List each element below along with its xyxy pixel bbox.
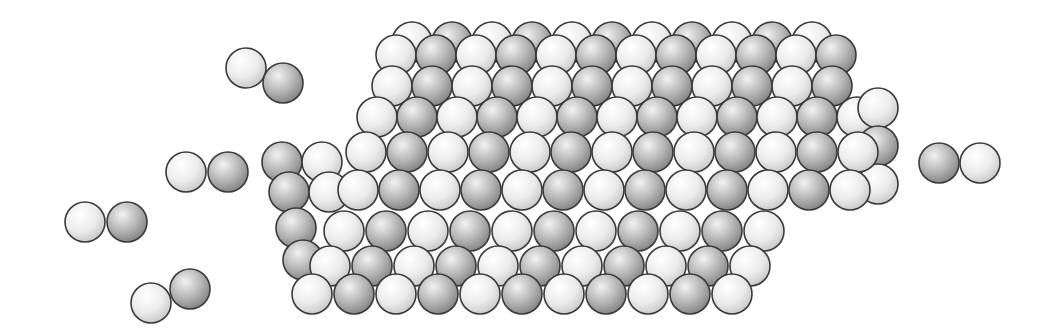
molecule-far-left xyxy=(65,202,147,242)
light-atom-icon xyxy=(502,170,542,210)
dark-atom-icon xyxy=(557,97,597,137)
light-atom-icon xyxy=(226,48,266,88)
dark-atom-icon xyxy=(543,170,583,210)
dark-atom-icon xyxy=(586,274,626,314)
light-atom-icon xyxy=(131,283,171,323)
light-atom-icon xyxy=(166,152,206,192)
light-atom-icon xyxy=(830,170,870,210)
light-atom-icon xyxy=(757,97,797,137)
light-atom-icon xyxy=(597,97,637,137)
dark-atom-icon xyxy=(637,97,677,137)
dark-atom-icon xyxy=(269,172,309,212)
dark-atom-icon xyxy=(461,170,501,210)
light-atom-icon xyxy=(858,88,898,128)
lattice-main-row-3 xyxy=(324,211,784,251)
dark-atom-icon xyxy=(450,211,490,251)
light-atom-icon xyxy=(492,211,532,251)
dark-atom-icon xyxy=(366,211,406,251)
lattice-main-row-1 xyxy=(346,132,878,172)
dark-atom-icon xyxy=(789,170,829,210)
dark-atom-icon xyxy=(170,269,210,309)
dark-atom-icon xyxy=(797,132,837,172)
light-atom-icon xyxy=(584,170,624,210)
light-atom-icon xyxy=(960,143,1000,183)
light-atom-icon xyxy=(338,170,378,210)
dark-atom-icon xyxy=(397,97,437,137)
light-atom-icon xyxy=(510,132,550,172)
lattice-main-row-2 xyxy=(338,170,870,210)
light-atom-icon xyxy=(660,211,700,251)
light-atom-icon xyxy=(838,132,878,172)
light-atom-icon xyxy=(346,132,386,172)
light-atom-icon xyxy=(408,211,448,251)
dark-atom-icon xyxy=(263,63,303,103)
dark-atom-icon xyxy=(670,274,710,314)
light-atom-icon xyxy=(292,274,332,314)
light-atom-icon xyxy=(674,132,714,172)
dark-atom-icon xyxy=(469,132,509,172)
light-atom-icon xyxy=(576,211,616,251)
dark-atom-icon xyxy=(477,97,517,137)
dark-atom-icon xyxy=(702,211,742,251)
dark-atom-icon xyxy=(107,202,147,242)
molecule-mid-left xyxy=(166,152,248,192)
dark-atom-icon xyxy=(379,170,419,210)
dark-atom-icon xyxy=(502,274,542,314)
molecule-bottom-left xyxy=(131,269,210,323)
light-atom-icon xyxy=(744,211,784,251)
light-atom-icon xyxy=(437,97,477,137)
light-atom-icon xyxy=(544,274,584,314)
molecule-top-left xyxy=(226,48,303,103)
dark-atom-icon xyxy=(717,97,757,137)
dark-atom-icon xyxy=(919,143,959,183)
light-atom-icon xyxy=(324,211,364,251)
lattice-illustration: Crystal lattice surface with approaching… xyxy=(0,0,1048,334)
dark-atom-icon xyxy=(534,211,574,251)
light-atom-icon xyxy=(628,274,668,314)
dark-atom-icon xyxy=(625,170,665,210)
crystal-lattice xyxy=(262,22,898,314)
light-atom-icon xyxy=(357,97,397,137)
dark-atom-icon xyxy=(387,132,427,172)
light-atom-icon xyxy=(428,132,468,172)
light-atom-icon xyxy=(677,97,717,137)
dark-atom-icon xyxy=(418,274,458,314)
lattice-main-row-5 xyxy=(292,274,752,314)
light-atom-icon xyxy=(666,170,706,210)
dark-atom-icon xyxy=(797,97,837,137)
light-atom-icon xyxy=(756,132,796,172)
light-atom-icon xyxy=(376,274,416,314)
dark-atom-icon xyxy=(633,132,673,172)
light-atom-icon xyxy=(460,274,500,314)
light-atom-icon xyxy=(517,97,557,137)
light-atom-icon xyxy=(65,202,105,242)
dark-atom-icon xyxy=(618,211,658,251)
light-atom-icon xyxy=(420,170,460,210)
light-atom-icon xyxy=(592,132,632,172)
dark-atom-icon xyxy=(551,132,591,172)
dark-atom-icon xyxy=(208,152,248,192)
dark-atom-icon xyxy=(715,132,755,172)
light-atom-icon xyxy=(712,274,752,314)
dark-atom-icon xyxy=(334,274,374,314)
light-atom-icon xyxy=(748,170,788,210)
dark-atom-icon xyxy=(707,170,747,210)
molecule-right xyxy=(919,143,1000,183)
